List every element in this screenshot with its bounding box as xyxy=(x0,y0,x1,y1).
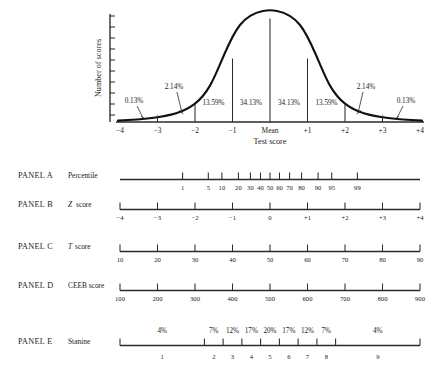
panel-e-boundary-ticks xyxy=(120,339,420,346)
curve-xtick-3: −1 xyxy=(229,126,237,135)
panel-c-tick-label-4: 50 xyxy=(267,256,274,263)
y-axis-label: Number of scores xyxy=(94,39,103,97)
panel-e-stanine-1: 2 xyxy=(212,353,215,360)
panel-a-tick-labels: 1 5 10 20 30 40 50 60 70 80 90 95 99 xyxy=(181,184,361,191)
panel-e-stanine-8: 9 xyxy=(376,353,380,360)
panel-c-tick-label-3: 40 xyxy=(229,256,236,263)
panel-e-stanine: PANEL E Stanine 4% 7% 12% 17% 20% xyxy=(18,327,420,360)
panel-a-tick-label-10: 90 xyxy=(315,184,322,191)
curve-pct-left-13-59: 13.59% xyxy=(202,99,224,107)
panel-d-tick-label-8: 900 xyxy=(415,295,426,302)
panel-a-tick-label-7: 60 xyxy=(276,184,283,191)
panel-d-tick-label-5: 600 xyxy=(303,295,314,302)
curve-pct-right-2-14: 2.14% xyxy=(357,83,376,91)
panel-a-percentile: PANEL A Percentile 1 5 10 xyxy=(18,171,420,191)
panel-e-percent-2: 12% xyxy=(226,327,239,335)
panel-b-ticks xyxy=(120,203,420,210)
panel-a-tick-label-8: 70 xyxy=(286,184,293,191)
panel-b-tick-label-5: +1 xyxy=(304,214,311,221)
curve-pct-right-13-59: 13.59% xyxy=(315,99,337,107)
panel-e-percent-7: 7% xyxy=(322,327,332,335)
curve-pct-left-0-13: 0.13% xyxy=(125,97,144,105)
panel-d-ticks xyxy=(120,284,420,291)
panel-d-tick-label-0: 100 xyxy=(115,295,126,302)
panel-b-scale-label: score xyxy=(76,200,92,209)
panel-c-tick-label-7: 80 xyxy=(379,256,386,263)
panel-a-tick-label-11: 95 xyxy=(328,184,335,191)
panel-b-tick-label-8: +4 xyxy=(416,214,424,221)
panel-c-t-score: PANEL C T score 10 20 30 40 50 xyxy=(18,242,424,263)
curve-xtick-1: −3 xyxy=(154,126,162,135)
panel-d-tick-label-2: 300 xyxy=(190,295,201,302)
panel-c-tick-label-2: 30 xyxy=(192,256,199,263)
panel-b-tick-label-1: −3 xyxy=(154,214,162,221)
curve-xtick-2: −2 xyxy=(191,126,199,135)
panel-e-stanine-4: 5 xyxy=(268,353,272,360)
curve-pct-left-2-14: 2.14% xyxy=(165,83,184,91)
panel-b-label: PANEL B xyxy=(18,200,53,209)
panel-c-tick-label-1: 20 xyxy=(154,256,161,263)
panel-e-stanine-labels: 1 2 3 4 5 6 7 8 9 xyxy=(161,353,381,360)
curve-xtick-8: +4 xyxy=(416,126,424,135)
panel-a-ticks xyxy=(183,173,358,180)
panel-d-tick-label-3: 400 xyxy=(228,295,239,302)
panel-a-label: PANEL A xyxy=(18,171,53,180)
curve-x-axis-ticks: −4 −3 −2 −1 Mean +1 +2 +3 +4 xyxy=(116,126,424,135)
panel-e-stanine-0: 1 xyxy=(161,353,164,360)
panel-a-tick-label-2: 10 xyxy=(219,184,226,191)
y-axis-ticks xyxy=(110,16,115,115)
panel-c-tick-label-8: 90 xyxy=(417,256,424,263)
curve-xtick-0: −4 xyxy=(116,126,124,135)
panel-b-z-score: PANEL B Z score −4 −3 −2 −1 0 + xyxy=(18,200,424,221)
panel-e-stanine-2: 3 xyxy=(231,353,235,360)
panel-e-stanine-6: 7 xyxy=(306,353,310,360)
panel-c-tick-label-0: 10 xyxy=(117,256,124,263)
panel-d-tick-label-1: 200 xyxy=(153,295,164,302)
panel-d-tick-labels: 100 200 300 400 500 600 700 800 900 xyxy=(115,295,426,302)
panel-e-percent-0: 4% xyxy=(157,327,167,335)
panel-e-scale-label: Stanine xyxy=(68,337,91,346)
panel-a-tick-label-0: 1 xyxy=(181,184,184,191)
panel-e-stanine-5: 6 xyxy=(287,353,291,360)
panel-c-tick-labels: 10 20 30 40 50 60 70 80 90 xyxy=(117,256,424,263)
panel-c-label: PANEL C xyxy=(18,242,53,251)
panel-c-ticks xyxy=(120,245,420,252)
panel-e-percent-8: 4% xyxy=(373,327,383,335)
panel-c-scale-symbol: T xyxy=(68,242,73,251)
panel-d-scale-label: CEEB score xyxy=(68,281,105,290)
curve-xtick-6: +2 xyxy=(341,126,349,135)
normal-curve-panel: Number of scores 0.13% 2.14% 13.59% 34.1… xyxy=(94,10,424,146)
panel-e-label: PANEL E xyxy=(18,337,52,346)
panel-c-tick-label-5: 60 xyxy=(304,256,311,263)
panel-b-tick-label-4: 0 xyxy=(268,214,272,221)
panel-b-tick-label-7: +3 xyxy=(379,214,387,221)
panel-b-tick-label-0: −4 xyxy=(116,214,124,221)
panel-a-tick-label-5: 40 xyxy=(257,184,264,191)
panel-e-percent-3: 17% xyxy=(245,327,258,335)
panel-b-tick-label-2: −2 xyxy=(191,214,198,221)
panel-b-tick-label-3: −1 xyxy=(229,214,236,221)
panel-a-tick-label-6: 50 xyxy=(267,184,274,191)
panel-c-tick-label-6: 70 xyxy=(342,256,349,263)
panel-e-percent-6: 12% xyxy=(301,327,314,335)
panel-d-tick-label-7: 800 xyxy=(378,295,389,302)
panel-b-tick-labels: −4 −3 −2 −1 0 +1 +2 +3 +4 xyxy=(116,214,424,221)
x-axis-label: Test score xyxy=(254,137,287,146)
curve-xtick-mean: Mean xyxy=(262,126,279,135)
curve-pct-left-34-13: 34.13% xyxy=(240,99,262,107)
panel-a-scale-label: Percentile xyxy=(68,171,98,180)
panel-e-percent-4: 20% xyxy=(263,327,276,335)
panel-a-tick-label-12: 99 xyxy=(354,184,361,191)
panel-e-percent-labels: 4% 7% 12% 17% 20% 17% 12% 7% 4% xyxy=(157,327,382,335)
panel-a-tick-label-4: 30 xyxy=(247,184,254,191)
panel-a-tick-label-3: 20 xyxy=(235,184,242,191)
panel-d-tick-label-6: 700 xyxy=(340,295,351,302)
panel-c-scale-label: score xyxy=(75,242,91,251)
panel-e-stanine-3: 4 xyxy=(250,353,254,360)
panel-b-tick-label-6: +2 xyxy=(341,214,348,221)
panel-a-tick-label-1: 5 xyxy=(207,184,211,191)
panel-e-percent-5: 17% xyxy=(282,327,295,335)
panel-e-percent-1: 7% xyxy=(209,327,219,335)
panel-e-stanine-7: 8 xyxy=(325,353,329,360)
figure-svg: Number of scores 0.13% 2.14% 13.59% 34.1… xyxy=(0,0,439,373)
